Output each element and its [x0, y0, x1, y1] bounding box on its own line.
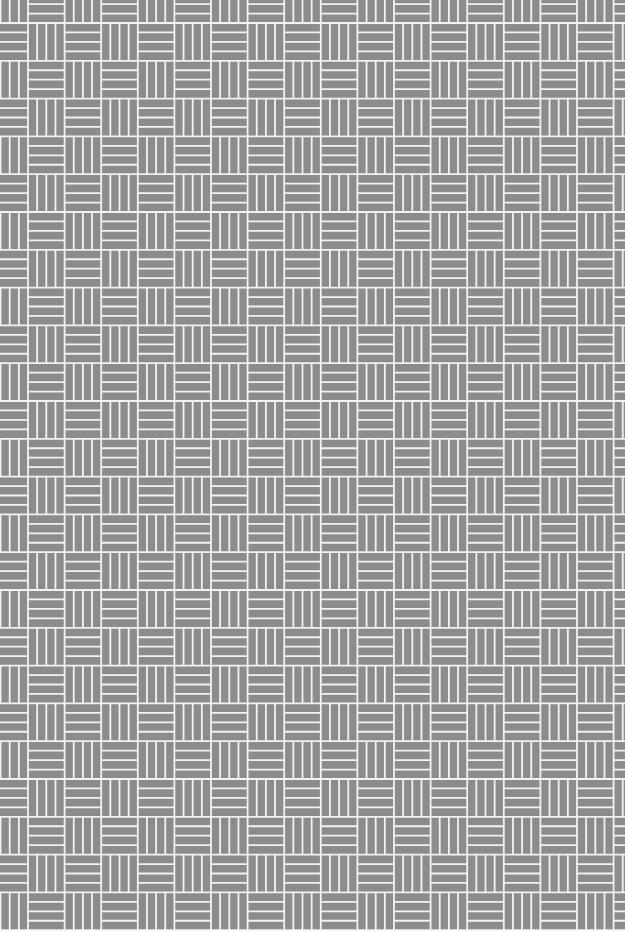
- basketweave-pattern: [0, 0, 625, 931]
